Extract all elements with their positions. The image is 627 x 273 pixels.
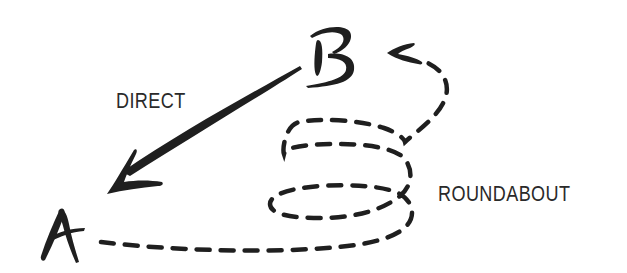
diagram-canvas: DIRECT ROUNDABOUT	[0, 0, 627, 273]
roundabout-label: ROUNDABOUT	[438, 183, 570, 205]
node-b-letter	[306, 27, 354, 88]
diagram-svg	[0, 0, 627, 273]
node-a-letter	[41, 208, 85, 263]
direct-label: DIRECT	[116, 90, 186, 112]
direct-arrow	[107, 66, 302, 194]
roundabout-arrowhead	[387, 43, 422, 64]
